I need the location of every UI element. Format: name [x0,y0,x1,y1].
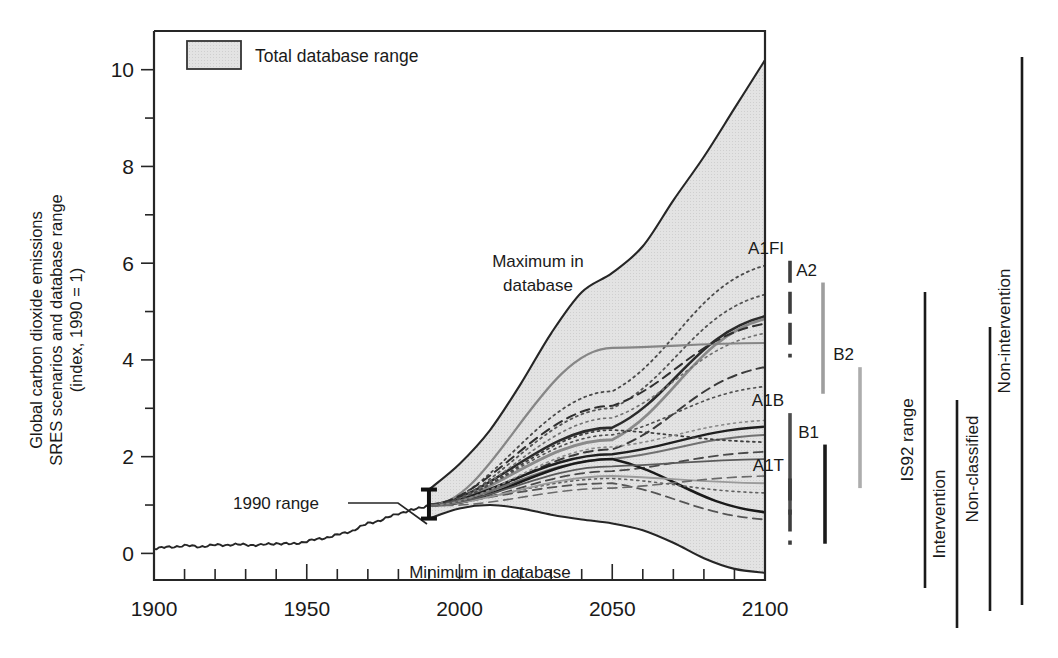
figure-container: Global carbon dioxide emissions SRES sce… [0,0,1058,658]
annotation-1990-range-label: 1990 range [233,494,319,513]
y-tick-label: 8 [122,155,134,178]
y-axis-title-line-1: Global carbon dioxide emissions [27,211,45,449]
annotation-max-line-1: Maximum in [492,252,584,271]
x-tick-label: 2100 [742,597,789,620]
y-axis-title: Global carbon dioxide emissions SRES sce… [27,194,85,466]
y-tick-label: 0 [122,542,134,565]
y-axis-title-line-2: SRES scenarios and database range [47,194,65,466]
annotation-min-line-1: Minimum in database [409,563,571,582]
scenario-marker-label-A2: A2 [796,261,817,280]
range-bar-label-is92-range: IS92 range [898,398,917,481]
annotation-max-line-2: database [503,276,573,295]
scenario-marker-label-B1: B1 [798,423,819,442]
y-tick-label: 4 [122,348,134,371]
x-tick-label: 2000 [436,597,483,620]
annotation-1990-range: 1990 range [233,494,427,524]
y-tick-label: 10 [111,58,134,81]
y-tick-label: 2 [122,445,134,468]
scenario-marker-label-A1T: A1T [753,456,784,475]
y-tick-label: 6 [122,252,134,275]
y-axis: 0246810 [111,58,154,565]
co2-emissions-chart: Global carbon dioxide emissions SRES sce… [0,0,1058,658]
x-tick-label: 1900 [131,597,178,620]
scenario-marker-label-A1FI: A1FI [748,239,784,258]
x-tick-label: 2050 [589,597,636,620]
annotation-minimum-in-database: Minimum in database [409,563,571,582]
legend: Total database range [187,41,418,69]
range-bar-label-intervention: Intervention [930,470,949,559]
legend-label-total-database-range: Total database range [255,46,418,66]
database-classification-range-bars: IS92 rangeInterventionNon-classifiedNon-… [898,57,1022,628]
y-axis-title-line-3: (index, 1990 = 1) [67,268,85,392]
scenario-marker-label-A1B: A1B [752,391,784,410]
range-bar-label-non-classified: Non-classified [963,416,982,523]
legend-swatch-total-database-range [187,41,241,69]
annotation-1990-range-leader-line [348,503,427,524]
x-tick-label: 1950 [283,597,330,620]
scenario-marker-label-B2: B2 [833,345,854,364]
annotation-maximum-in-database: Maximum in database [492,252,584,295]
range-bar-label-non-intervention: Non-intervention [995,269,1014,394]
